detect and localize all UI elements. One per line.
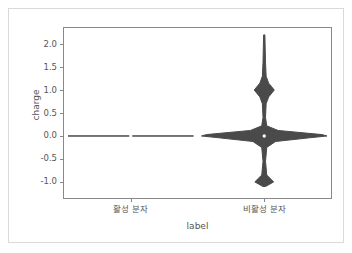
x-tick-mark (264, 199, 265, 202)
plot-area (64, 28, 331, 198)
violin-2 (202, 35, 328, 187)
y-tick-label: 0.5 (21, 109, 57, 118)
x-tick-label: 활성 분자 (81, 205, 181, 214)
chart-figure: charge 2.01.51.00.50.0-0.5-1.0 활성 분자비활성 … (0, 0, 352, 253)
x-axis-label: label (63, 221, 332, 231)
y-tick-label: 0.0 (21, 131, 57, 140)
x-tick-mark (131, 199, 132, 202)
median-marker-1 (129, 134, 132, 137)
violin-plot-svg (64, 28, 331, 198)
y-tick-label: -0.5 (21, 154, 57, 163)
y-tick-label: 1.5 (21, 63, 57, 72)
y-tick-label: -1.0 (21, 177, 57, 186)
median-marker-2 (263, 134, 266, 137)
plot-axes (63, 27, 332, 199)
y-tick-label: 2.0 (21, 40, 57, 49)
y-tick-label: 1.0 (21, 86, 57, 95)
x-tick-label: 비활성 분자 (214, 205, 314, 214)
